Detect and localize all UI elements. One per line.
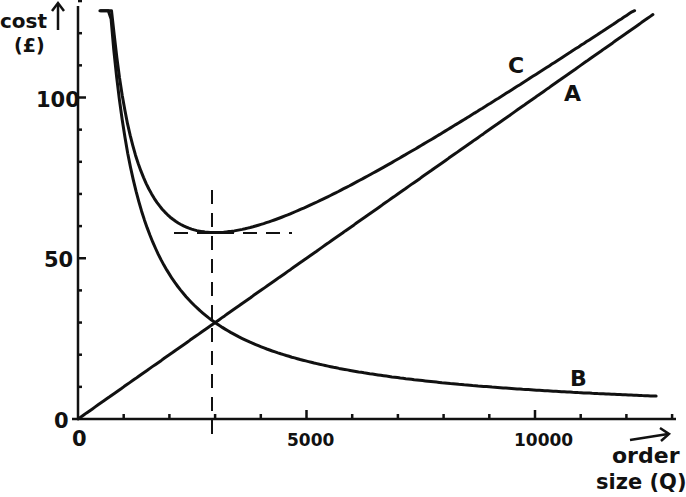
cost-chart: cost (£) order size (Q) 100 50 0 0 5000 … xyxy=(0,0,686,497)
y-tick-label-0: 0 xyxy=(54,409,69,433)
x-tick-label-0: 0 xyxy=(72,427,87,451)
x-tick-label-10000: 10000 xyxy=(514,430,573,450)
y-tick-label-100: 100 xyxy=(36,88,80,112)
y-axis-label: cost (£) xyxy=(0,3,64,56)
curve-a-label: A xyxy=(564,81,581,106)
x-axis-label-size: size (Q) xyxy=(596,470,686,494)
y-tick-label-50: 50 xyxy=(44,248,73,272)
x-tick-label-5000: 5000 xyxy=(287,430,334,450)
x-ticks xyxy=(124,410,672,419)
y-axis-label-unit: (£) xyxy=(14,34,45,56)
x-axis-label-order: order xyxy=(612,443,680,468)
y-axis-label-cost: cost xyxy=(0,9,48,33)
curve-c-total-cost xyxy=(101,11,635,233)
curve-b-label: B xyxy=(570,366,587,391)
curve-c-label: C xyxy=(508,53,524,78)
curve-b-ordering-cost xyxy=(100,11,656,396)
x-axis-label: order size (Q) xyxy=(596,428,686,494)
curve-a-holding-cost xyxy=(78,15,653,419)
